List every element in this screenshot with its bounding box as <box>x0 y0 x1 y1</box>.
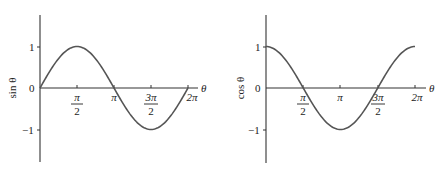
sin-ytick-label-1: 1 <box>29 41 35 53</box>
sin-xlabel: θ <box>201 82 207 94</box>
cos-ylabel: cos θ <box>234 77 246 100</box>
sin-chart: 1 0 −1 π 2 π 3π 2 2π θ sin θ <box>6 15 207 162</box>
cos-ytick-label-m1: −1 <box>248 124 260 136</box>
cos-xtick-label-pi2-den: 2 <box>300 105 306 117</box>
sin-xtick-label-pi2-num: π <box>74 91 80 103</box>
sin-ytick-label-0: 0 <box>29 82 35 94</box>
cos-ytick-label-0: 0 <box>255 82 261 94</box>
cos-xlabel: θ <box>429 82 435 94</box>
cos-ytick-label-1: 1 <box>255 41 261 53</box>
cos-xtick-label-3pi2-den: 2 <box>375 105 381 117</box>
sin-xtick-label-pi2-den: 2 <box>74 105 80 117</box>
cos-xtick-label-2pi: 2π <box>411 91 423 103</box>
sin-ylabel: sin θ <box>6 78 18 99</box>
figure: 1 0 −1 π 2 π 3π 2 2π θ sin θ 1 0 −1 <box>0 0 440 175</box>
sin-xtick-label-3pi2-den: 2 <box>148 105 154 117</box>
sin-xtick-label-2pi: 2π <box>186 91 198 103</box>
sin-ytick-label-m1: −1 <box>22 124 34 136</box>
cos-xtick-label-pi: π <box>337 91 343 103</box>
sin-xtick-label-3pi2-num: 3π <box>144 91 157 103</box>
cos-chart: 1 0 −1 π 2 π 3π 2 2π θ cos θ <box>234 15 435 163</box>
